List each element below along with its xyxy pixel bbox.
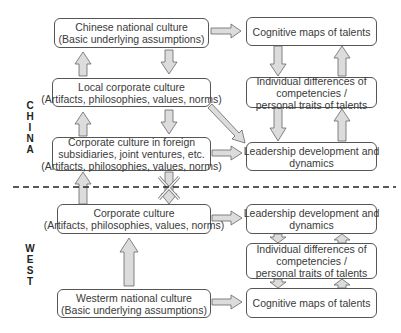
arrow-diagonal-local-to-leadership [208,104,245,143]
arrow-up-individual-to-cognitive [334,46,350,76]
arrow-down-leadership-to-individual-west [270,234,286,243]
arrow-up-leadership-to-individual [334,109,350,141]
arrow-down-national-to-local [161,50,177,74]
arrow-right-foreign-to-leadership [212,146,242,160]
arrow-right-national-to-cognitive-west [212,295,242,309]
box-cognitive-maps-china: Cognitive maps of talents [246,17,377,46]
region-label-west: W E S T [24,243,36,287]
arrow-up-national-to-corporate-west [120,238,138,286]
arrow-up-west-to-foreign [75,172,91,204]
arrow-up-local-to-national [75,52,91,76]
arrow-right-national-to-cognitive [211,24,241,38]
box-local-corporate-culture: Local corporate culture (Artifacts, phil… [52,78,211,107]
box-individual-differences-china: Individual differences of competencies /… [246,77,377,108]
arrow-down-individual-to-leadership [270,108,286,141]
arrow-up-individual-to-leadership-west [334,234,350,243]
box-cognitive-maps-west: Cognitive maps of talents [246,288,377,318]
arrow-up-foreign-to-local [75,112,91,136]
box-corporate-culture-west: Corporate culture (Artifacts, philosophi… [57,204,211,234]
arrow-up-cognitive-to-individual-west [334,279,350,288]
box-chinese-national-culture: Chinese national culture (Basic underlyi… [54,18,209,48]
box-foreign-corporate-culture: Corporate culture in foreign subsidiarie… [52,137,211,171]
region-label-china: C H I N A [24,100,36,155]
arrow-down-individual-to-cognitive-west [270,279,286,288]
arrow-down-local-to-foreign [161,110,177,134]
arrow-down-cognitive-to-individual [270,46,286,76]
box-individual-differences-west: Individual differences of competencies /… [246,243,377,279]
box-leadership-china: Leadership development and dynamics [246,142,377,171]
box-leadership-west: Leadership development and dynamics [246,204,377,234]
box-western-national-culture: Westerm national culture (Basic underlyi… [57,289,211,318]
